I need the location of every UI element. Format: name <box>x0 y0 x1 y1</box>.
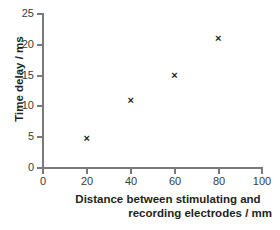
x-tick-0 <box>42 169 44 174</box>
x-tick-label-20: 20 <box>67 176 107 187</box>
y-tick-5 <box>37 136 42 138</box>
x-tick-label-80: 80 <box>199 176 239 187</box>
x-axis-line <box>42 167 263 169</box>
x-tick-label-0: 0 <box>23 176 63 187</box>
data-point-marker: × <box>170 71 179 80</box>
data-point-marker: × <box>214 34 223 43</box>
data-point-marker: × <box>82 134 91 143</box>
y-tick-15 <box>37 75 42 77</box>
y-tick-25 <box>37 13 42 15</box>
x-axis-title: Distance between stimulating and recordi… <box>60 192 276 220</box>
x-tick-20 <box>86 169 88 174</box>
x-tick-label-60: 60 <box>155 176 195 187</box>
x-tick-40 <box>130 169 132 174</box>
x-tick-100 <box>261 169 263 174</box>
scatter-chart: 0 5 10 15 20 25 0 20 40 60 80 100 Time d… <box>0 0 280 230</box>
y-tick-10 <box>37 105 42 107</box>
x-axis-title-line-2: recording electrodes / mm <box>60 206 276 220</box>
y-axis-line <box>42 13 44 169</box>
x-tick-label-40: 40 <box>111 176 151 187</box>
x-tick-label-100: 100 <box>242 176 280 187</box>
y-axis-title: Time delay / ms <box>13 9 25 149</box>
y-tick-20 <box>37 44 42 46</box>
x-tick-60 <box>174 169 176 174</box>
data-point-marker: × <box>126 96 135 105</box>
x-tick-80 <box>218 169 220 174</box>
y-tick-label-0: 0 <box>4 162 34 173</box>
x-axis-title-line-1: Distance between stimulating and <box>75 193 260 205</box>
